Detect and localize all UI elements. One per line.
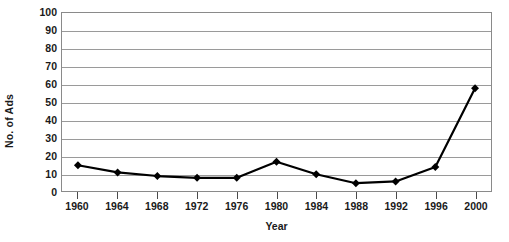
x-axis-tick <box>316 192 317 199</box>
data-point-marker <box>392 177 400 185</box>
x-axis-tick-label: 2000 <box>453 201 499 213</box>
x-axis-tick <box>77 192 78 199</box>
y-axis-tick-label: 20 <box>27 151 57 162</box>
data-point-marker <box>431 163 439 171</box>
y-axis-tick-label: 90 <box>27 25 57 36</box>
series-line <box>78 88 475 183</box>
x-axis-ticks <box>61 192 492 199</box>
y-axis-tick-label: 100 <box>27 7 57 18</box>
data-point-marker <box>74 161 82 169</box>
data-point-marker <box>233 174 241 182</box>
data-point-marker <box>471 84 479 92</box>
y-axis-tick-label: 0 <box>27 187 57 198</box>
y-axis-tick-label: 50 <box>27 97 57 108</box>
x-axis-tick <box>476 192 477 199</box>
x-axis-tick <box>277 192 278 199</box>
y-axis-tick-label: 70 <box>27 61 57 72</box>
data-point-marker <box>153 172 161 180</box>
y-axis-tick-label: 30 <box>27 133 57 144</box>
data-point-marker <box>312 170 320 178</box>
y-axis-title: No. of Ads <box>0 0 18 242</box>
data-point-marker <box>114 168 122 176</box>
data-point-marker <box>193 174 201 182</box>
y-axis-tick-label: 40 <box>27 115 57 126</box>
line-chart: No. of Ads 0102030405060708090100 196019… <box>0 0 509 242</box>
y-axis-tick-label: 80 <box>27 43 57 54</box>
x-axis-tick <box>396 192 397 199</box>
y-axis-tick-label: 60 <box>27 79 57 90</box>
x-axis-tick <box>237 192 238 199</box>
x-axis-tick <box>197 192 198 199</box>
x-axis-tick-labels: 1960196419681972197619801984198819921996… <box>61 201 492 217</box>
y-axis-tick-labels: 0102030405060708090100 <box>27 12 57 192</box>
x-axis-tick <box>356 192 357 199</box>
x-axis-tick <box>157 192 158 199</box>
data-point-marker <box>352 179 360 187</box>
x-axis-tick <box>436 192 437 199</box>
data-series-ads <box>62 13 491 192</box>
y-axis-tick-label: 10 <box>27 169 57 180</box>
x-axis-tick <box>117 192 118 199</box>
data-point-marker <box>273 158 281 166</box>
plot-area <box>61 12 492 192</box>
x-axis-title: Year <box>61 220 492 232</box>
